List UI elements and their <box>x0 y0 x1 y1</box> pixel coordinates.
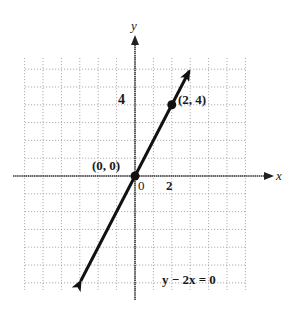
y-axis-label: y <box>129 18 137 33</box>
coordinate-graph: y x 4 0 2 (0, 0) (2, 4) y − 2x = 0 <box>0 0 293 309</box>
equation-label: y − 2x = 0 <box>162 272 216 287</box>
point-label-2-4: (2, 4) <box>178 92 206 107</box>
tick-label-origin: 0 <box>138 178 145 193</box>
tick-label-x-2: 2 <box>166 178 173 193</box>
point-2-4 <box>167 100 176 109</box>
x-axis-label: x <box>275 168 282 183</box>
point-label-origin: (0, 0) <box>92 158 120 173</box>
tick-label-y-4: 4 <box>118 92 125 107</box>
